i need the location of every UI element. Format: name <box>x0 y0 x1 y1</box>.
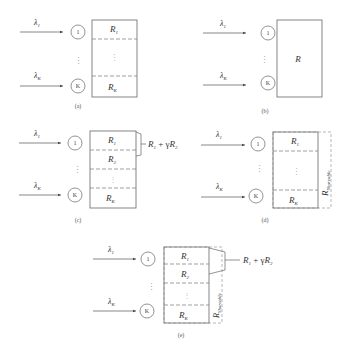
svg-text:⋮: ⋮ <box>255 164 264 174</box>
caption-d: (d) <box>262 217 269 224</box>
lambda-1-label: λ1 <box>33 18 40 28</box>
block-r-label: R <box>294 54 301 64</box>
panel-b: λ1 1 ⋮ λK K R (b) <box>203 19 322 115</box>
bracket-icon <box>136 132 141 156</box>
panel-c: λ1 1 ⋮ λK K ⋮ R1 R2 RK R1 + γR2 (c) <box>19 129 178 224</box>
svg-text:⋮: ⋮ <box>260 55 269 65</box>
caption-c: (c) <box>75 217 82 224</box>
svg-text:⋮: ⋮ <box>183 291 191 300</box>
svg-text:λ1: λ1 <box>33 129 40 139</box>
svg-text:⋮: ⋮ <box>110 53 119 63</box>
caption-e: (e) <box>178 332 185 339</box>
lambda-k-label: λK <box>33 71 41 81</box>
caption-a: (a) <box>75 103 82 110</box>
svg-text:RK: RK <box>105 193 116 204</box>
annotation-r1-gamma-r2: R1 + γR2 <box>242 255 273 266</box>
svg-text:λ1: λ1 <box>215 130 222 140</box>
shareable-label: RShareable <box>212 292 222 319</box>
svg-text:1: 1 <box>74 140 77 146</box>
svg-text:λK: λK <box>33 181 41 191</box>
vertical-ellipsis: ⋮ <box>74 56 83 66</box>
svg-text:1: 1 <box>267 30 270 36</box>
svg-text:K: K <box>145 308 150 314</box>
shareable-region <box>164 247 222 323</box>
svg-text:⋮: ⋮ <box>73 165 82 175</box>
node-k-label: K <box>76 83 81 89</box>
svg-text:R2: R2 <box>180 269 190 280</box>
figure-canvas: λ1 1 ⋮ λK K ⋮ R1 RK (a) λ1 1 ⋮ λK K R (b… <box>0 0 345 354</box>
segment-rk-label: RK <box>107 82 118 93</box>
svg-text:K: K <box>254 193 259 199</box>
shareable-label: RShareable <box>320 170 331 197</box>
panel-e: λ1 1 ⋮ λK K ⋮ R1 R2 RK RShareable R1 + γ… <box>93 245 273 339</box>
lambda-1-label: λ1 <box>219 19 226 29</box>
svg-text:K: K <box>73 192 78 198</box>
segment-r1-label: R1 <box>109 24 118 35</box>
svg-text:R2: R2 <box>107 154 117 165</box>
svg-text:R1: R1 <box>290 136 299 147</box>
svg-text:1: 1 <box>147 256 150 262</box>
svg-text:⋮: ⋮ <box>292 167 301 177</box>
svg-text:⋮: ⋮ <box>147 282 156 292</box>
svg-text:K: K <box>266 80 271 86</box>
lambda-k-label: λK <box>219 71 227 81</box>
svg-text:RK: RK <box>288 195 299 206</box>
svg-text:λK: λK <box>107 297 115 307</box>
caption-b: (b) <box>262 108 269 115</box>
bracket-icon <box>209 248 225 274</box>
svg-text:λK: λK <box>215 182 223 192</box>
svg-text:RK: RK <box>178 310 189 321</box>
svg-text:R1: R1 <box>107 135 116 146</box>
panel-d: λ1 1 ⋮ λK K ⋮ R1 RK RShareable (d) <box>201 130 331 224</box>
svg-text:λ1: λ1 <box>107 245 114 255</box>
svg-text:R1: R1 <box>180 251 189 262</box>
node-1-label: 1 <box>77 29 80 35</box>
svg-text:⋮: ⋮ <box>109 175 117 184</box>
panel-a: λ1 1 ⋮ λK K ⋮ R1 RK (a) <box>20 18 137 110</box>
svg-text:1: 1 <box>257 141 260 147</box>
annotation-r1-gamma-r2: R1 + γR2 <box>147 139 178 150</box>
